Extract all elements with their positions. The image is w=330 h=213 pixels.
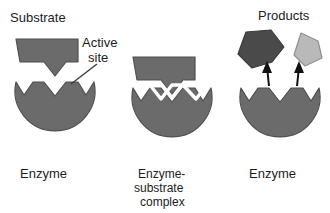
panel-1: Substrate Active site Enzyme: [10, 10, 117, 181]
substrate-shape-panel-1: [16, 39, 78, 76]
active-site-label-line-1: Active: [82, 35, 117, 50]
panel-3: Products Enzyme: [238, 8, 322, 181]
active-site-leader-line: [71, 64, 97, 84]
panel-2-bottom-label-line-3: complex: [140, 195, 185, 209]
enzyme-shape-panel-1: [15, 82, 95, 131]
panel-2-bottom-label-line-2: substrate: [134, 181, 184, 195]
panel-3-bottom-label: Enzyme: [249, 166, 296, 181]
release-arrow-right: [294, 61, 304, 86]
panel-1-top-label: Substrate: [10, 10, 66, 25]
active-site-label-line-2: site: [88, 50, 108, 65]
product-dark-shape: [238, 30, 284, 68]
panel-1-bottom-label: Enzyme: [20, 166, 67, 181]
panel-2: Enzyme- substrate complex: [132, 57, 212, 209]
enzyme-reaction-figure: Substrate Active site Enzyme Enzyme- sub…: [0, 0, 330, 213]
panel-3-top-label: Products: [258, 8, 310, 23]
diagram-canvas: Substrate Active site Enzyme Enzyme- sub…: [0, 0, 330, 213]
enzyme-shape-panel-3: [240, 88, 320, 137]
product-light-shape: [294, 33, 322, 66]
panel-2-bottom-label-line-1: Enzyme-: [138, 167, 185, 181]
